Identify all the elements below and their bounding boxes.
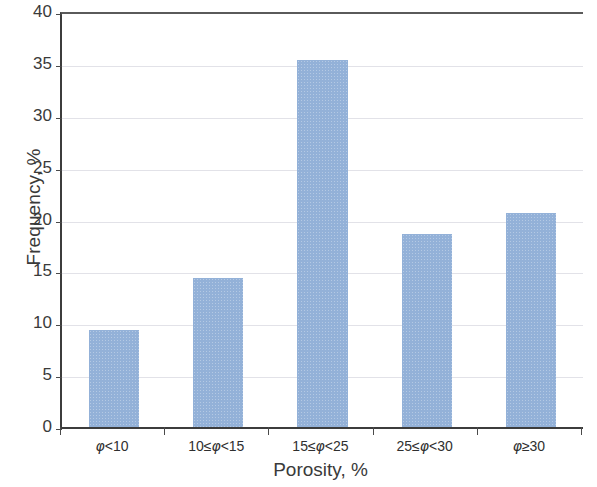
y-axis-tick-label: 20: [8, 210, 52, 230]
plot-area: [60, 12, 583, 429]
x-axis-tick-label: 15≤φ<25: [268, 438, 372, 454]
y-axis-tick-mark: [56, 118, 62, 119]
y-axis-tick-mark: [56, 222, 62, 223]
y-axis-tick-label: 35: [8, 54, 52, 74]
bar-chart-figure: Frequency, % 0510152025303540 φ<1010≤φ<1…: [0, 0, 597, 487]
x-axis-tick-mark: [60, 427, 61, 435]
y-axis-tick-label: 40: [8, 2, 52, 22]
y-axis-tick-mark: [56, 170, 62, 171]
x-axis-tick-label: 10≤φ<15: [164, 438, 268, 454]
x-axis-tick-label: φ<10: [60, 438, 164, 454]
y-axis-tick-mark: [56, 66, 62, 67]
x-axis-line: [60, 427, 583, 429]
x-axis-title: Porosity, %: [60, 459, 581, 481]
x-axis-tick-mark: [164, 427, 165, 435]
x-axis-tick-label: φ≥30: [477, 438, 581, 454]
bar: [297, 60, 347, 429]
x-axis-tick-mark: [268, 427, 269, 435]
y-axis-tick-mark: [56, 14, 62, 15]
bar: [89, 330, 139, 429]
y-axis-tick-label: 30: [8, 106, 52, 126]
bar: [193, 278, 243, 429]
y-axis-tick-mark: [56, 273, 62, 274]
y-axis-tick-mark: [56, 325, 62, 326]
x-axis-tick-mark: [373, 427, 374, 435]
x-axis-tick-mark: [581, 427, 582, 435]
x-axis-tick-label: 25≤φ<30: [373, 438, 477, 454]
y-axis-tick-label: 5: [8, 365, 52, 385]
bar: [402, 234, 452, 429]
bar: [506, 213, 556, 429]
y-axis-tick-mark: [56, 377, 62, 378]
y-axis-tick-label: 0: [8, 417, 52, 437]
x-axis-tick-mark: [477, 427, 478, 435]
y-axis-tick-label: 25: [8, 158, 52, 178]
y-axis-tick-label: 15: [8, 261, 52, 281]
y-axis-tick-label: 10: [8, 313, 52, 333]
y-axis-tick-labels: 0510152025303540: [0, 12, 52, 427]
y-axis-tick-mark: [56, 429, 62, 430]
